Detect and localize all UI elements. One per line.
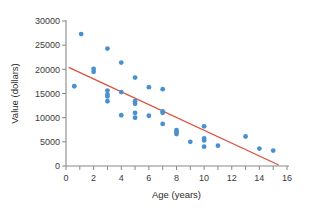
data-point xyxy=(133,101,138,106)
scatter-chart: 050001000015000200002500030000 024681012… xyxy=(0,0,312,216)
data-point xyxy=(146,113,151,118)
data-point xyxy=(160,110,165,115)
x-tick-label: 10 xyxy=(199,173,209,183)
y-tick-label: 15000 xyxy=(35,89,60,99)
y-tick-label: 20000 xyxy=(35,65,60,75)
data-point xyxy=(105,46,110,51)
x-axis-title: Age (years) xyxy=(152,189,201,200)
data-point xyxy=(271,148,276,153)
data-point xyxy=(174,132,179,137)
data-point xyxy=(257,146,262,151)
data-point xyxy=(202,124,207,129)
data-point xyxy=(188,139,193,144)
data-point xyxy=(79,32,84,37)
data-point xyxy=(133,110,138,115)
data-point xyxy=(202,138,207,143)
data-point xyxy=(160,87,165,92)
x-tick-label: 4 xyxy=(119,173,124,183)
data-point xyxy=(243,134,248,139)
data-points-group xyxy=(72,32,276,153)
data-point xyxy=(119,113,124,118)
y-axis-tick-labels: 050001000015000200002500030000 xyxy=(35,16,60,171)
x-tick-label: 14 xyxy=(254,173,264,183)
data-point xyxy=(133,115,138,120)
y-axis-title: Value (dollars) xyxy=(9,63,20,124)
x-tick-label: 6 xyxy=(146,173,151,183)
data-point xyxy=(119,90,124,95)
y-tick-label: 0 xyxy=(55,161,60,171)
x-tick-label: 16 xyxy=(282,173,292,183)
data-point xyxy=(105,99,110,104)
regression-trendline xyxy=(69,67,279,165)
y-tick-label: 10000 xyxy=(35,113,60,123)
y-axis-tick-marks xyxy=(62,21,66,166)
data-point xyxy=(119,60,124,65)
x-tick-label: 0 xyxy=(63,173,68,183)
data-point xyxy=(160,122,165,127)
x-tick-label: 12 xyxy=(227,173,237,183)
data-point xyxy=(202,144,207,149)
y-tick-label: 25000 xyxy=(35,40,60,50)
x-tick-label: 8 xyxy=(174,173,179,183)
chart-canvas: 050001000015000200002500030000 024681012… xyxy=(0,0,312,216)
data-point xyxy=(105,94,110,99)
data-point xyxy=(91,69,96,74)
data-point xyxy=(216,143,221,148)
x-tick-label: 2 xyxy=(91,173,96,183)
y-tick-label: 30000 xyxy=(35,16,60,26)
data-point xyxy=(133,75,138,80)
y-tick-label: 5000 xyxy=(40,137,60,147)
x-axis-tick-marks xyxy=(66,166,287,170)
data-point xyxy=(146,85,151,90)
x-axis-tick-labels: 0246810121416 xyxy=(63,173,292,183)
data-point xyxy=(72,84,77,89)
